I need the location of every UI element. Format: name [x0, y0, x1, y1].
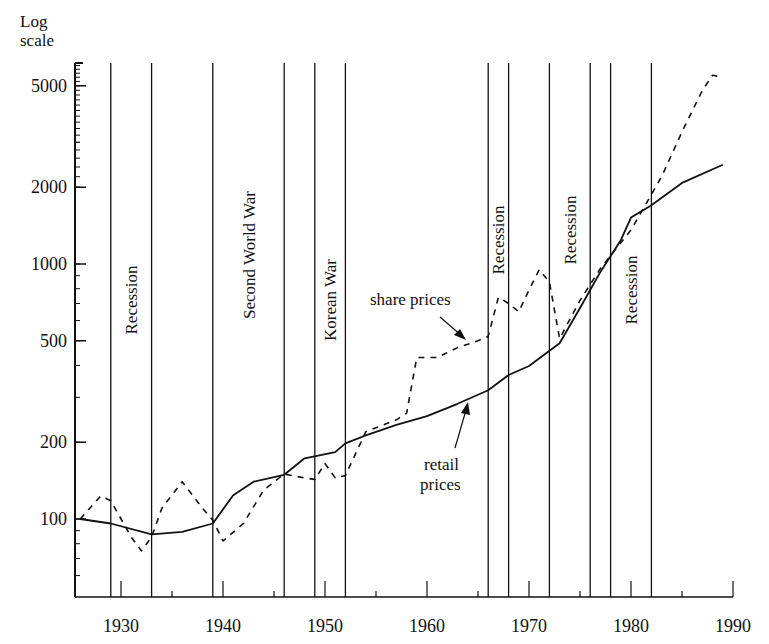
x-tick-label: 1970	[511, 616, 547, 636]
event-period-lines: RecessionSecond World WarKorean WarReces…	[111, 63, 652, 597]
y-tick-label: 2000	[31, 177, 67, 197]
y-tick-label: 200	[40, 432, 67, 452]
event-period-label: Recession	[561, 195, 580, 264]
retail-prices-label-line1: retail	[424, 455, 459, 474]
y-tick-label: 1000	[31, 254, 67, 274]
axes: 1002005001000200050001930194019501960197…	[31, 63, 751, 636]
line-chart: RecessionSecond World WarKorean WarReces…	[0, 0, 769, 644]
y-tick-label: 5000	[31, 76, 67, 96]
y-tick-label: 500	[40, 331, 67, 351]
retail-prices-label-line2: prices	[420, 475, 461, 494]
x-tick-label: 1940	[205, 616, 241, 636]
event-period-label: Second World War	[240, 191, 259, 319]
retail-prices-arrow-icon	[455, 402, 470, 448]
annotations: share prices retail prices	[370, 290, 470, 494]
x-tick-label: 1990	[715, 616, 751, 636]
x-tick-label: 1980	[613, 616, 649, 636]
event-period-label: Recession	[489, 205, 508, 274]
share-prices-arrow-icon	[440, 317, 466, 340]
x-tick-label: 1930	[103, 616, 139, 636]
retail-prices-line	[80, 165, 723, 535]
x-tick-label: 1950	[307, 616, 343, 636]
event-period-label: Recession	[122, 265, 141, 334]
x-tick-label: 1960	[409, 616, 445, 636]
event-period-label: Recession	[622, 255, 641, 324]
y-tick-label: 100	[40, 509, 67, 529]
share-prices-label: share prices	[370, 290, 451, 309]
event-period-label: Korean War	[321, 259, 340, 341]
